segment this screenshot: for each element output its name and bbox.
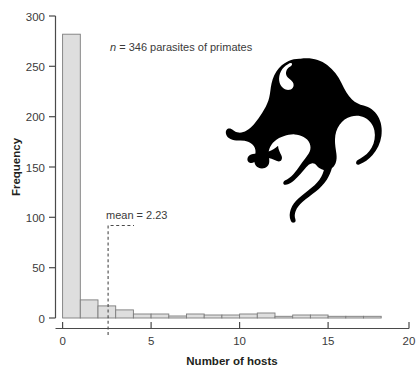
- x-tick-label-5: 5: [148, 335, 154, 347]
- bar-9: [222, 315, 240, 318]
- y-tick-label-100: 100: [26, 212, 45, 224]
- bar-17: [364, 316, 382, 318]
- x-axis-tick-labels: 0 5 10 15 20: [59, 335, 415, 347]
- bar-14: [310, 315, 328, 318]
- y-axis-ticks: [49, 16, 56, 318]
- x-tick-label-0: 0: [59, 335, 65, 347]
- x-axis: 0 5 10 15 20 Number of hosts: [56, 322, 416, 367]
- bar-1: [80, 300, 98, 318]
- bar-2: [98, 306, 116, 318]
- bar-8: [204, 315, 222, 318]
- x-tick-label-15: 15: [322, 335, 335, 347]
- y-tick-label-150: 150: [26, 162, 45, 174]
- monkey-silhouette: [226, 58, 382, 222]
- chart-svg: 300 250 200 150 100 50 0 Frequency: [0, 0, 418, 375]
- x-axis-ticks: [63, 322, 409, 329]
- bar-16: [346, 316, 364, 318]
- bar-3: [116, 310, 134, 318]
- bar-7: [187, 314, 205, 318]
- bar-15: [328, 316, 346, 318]
- y-tick-label-250: 250: [26, 61, 45, 73]
- y-tick-label-0: 0: [39, 313, 45, 325]
- bar-10: [240, 314, 258, 318]
- sample-size-text: = 346 parasites of primates: [116, 41, 253, 53]
- y-tick-label-300: 300: [26, 11, 45, 23]
- x-tick-label-20: 20: [403, 335, 416, 347]
- bar-12: [275, 316, 293, 318]
- mean-label: mean = 2.23: [106, 209, 167, 221]
- mean-dashed-line: [108, 226, 134, 336]
- y-axis: 300 250 200 150 100 50 0 Frequency: [10, 11, 56, 325]
- monkey-body-path: [226, 58, 382, 185]
- x-tick-label-10: 10: [233, 335, 246, 347]
- histogram-figure: 300 250 200 150 100 50 0 Frequency: [0, 0, 418, 375]
- sample-size-annotation: n = 346 parasites of primates: [110, 41, 253, 53]
- bar-5: [151, 314, 169, 318]
- bar-0: [63, 34, 81, 318]
- y-axis-tick-labels: 300 250 200 150 100 50 0: [26, 11, 45, 325]
- y-tick-label-50: 50: [32, 262, 45, 274]
- x-axis-title: Number of hosts: [186, 355, 277, 367]
- bar-11: [257, 313, 275, 318]
- bar-6: [169, 316, 187, 318]
- bar-13: [293, 315, 311, 318]
- y-tick-label-200: 200: [26, 111, 45, 123]
- y-axis-title: Frequency: [10, 137, 22, 196]
- bar-4: [133, 314, 151, 318]
